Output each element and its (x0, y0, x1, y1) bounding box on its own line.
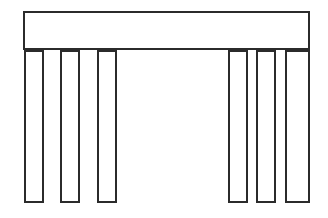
leg-left-1 (25, 51, 43, 202)
leg-right-3 (286, 51, 309, 202)
leg-left-3 (98, 51, 116, 202)
leg-left-2 (61, 51, 79, 202)
tabletop-bar (24, 12, 309, 49)
table-outline-figure (0, 0, 328, 218)
leg-right-2 (257, 51, 275, 202)
drawing-canvas: Line Drawing Horizontal tabletop bar wit… (0, 0, 328, 218)
leg-right-1 (229, 51, 247, 202)
